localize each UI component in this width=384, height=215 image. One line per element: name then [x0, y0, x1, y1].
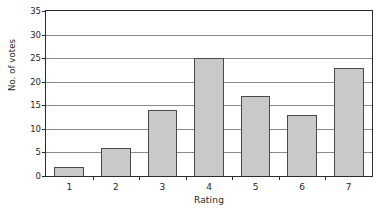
x-axis-tick-mark — [139, 176, 140, 180]
x-axis-tick-mark — [325, 176, 326, 180]
y-axis-tick-mark — [42, 152, 46, 153]
y-axis-tick-mark — [42, 35, 46, 36]
bar — [194, 58, 224, 176]
x-axis-tick-mark — [186, 176, 187, 180]
y-axis-tick-label: 0 — [36, 171, 41, 181]
bar — [54, 167, 84, 176]
gridline — [46, 35, 372, 36]
y-axis-tick-label: 5 — [36, 147, 41, 157]
y-axis-tick-mark — [42, 58, 46, 59]
y-axis-tick-label: 10 — [30, 124, 41, 134]
y-axis-tick-mark — [42, 11, 46, 12]
y-axis-tick-label: 25 — [30, 53, 41, 63]
bar — [287, 115, 317, 176]
x-axis-tick-label: 1 — [66, 182, 72, 192]
y-axis-tick-mark — [42, 105, 46, 106]
x-axis-tick-label: 6 — [299, 182, 305, 192]
y-axis-tick-mark — [42, 82, 46, 83]
y-axis-tick-mark — [42, 129, 46, 130]
y-axis-tick-label: 30 — [30, 30, 41, 40]
y-axis-tick-label: 15 — [30, 100, 41, 110]
bar-chart: No. of votes 051015202530351234567 Ratin… — [0, 0, 384, 215]
bar — [334, 68, 364, 176]
x-axis-tick-mark — [232, 176, 233, 180]
x-axis-tick-label: 7 — [346, 182, 352, 192]
plot-area: 051015202530351234567 — [45, 10, 373, 177]
bar — [241, 96, 271, 176]
y-axis-title: No. of votes — [7, 10, 17, 120]
bar — [101, 148, 131, 176]
x-axis-tick-mark — [93, 176, 94, 180]
x-axis-tick-mark — [279, 176, 280, 180]
x-axis-tick-label: 5 — [253, 182, 259, 192]
bar — [148, 110, 178, 176]
x-axis-title: Rating — [44, 195, 374, 205]
x-axis-tick-label: 2 — [113, 182, 119, 192]
y-axis-tick-mark — [42, 176, 46, 177]
y-axis-tick-label: 35 — [30, 6, 41, 16]
x-axis-tick-label: 3 — [160, 182, 166, 192]
x-axis-tick-label: 4 — [206, 182, 212, 192]
y-axis-tick-label: 20 — [30, 77, 41, 87]
